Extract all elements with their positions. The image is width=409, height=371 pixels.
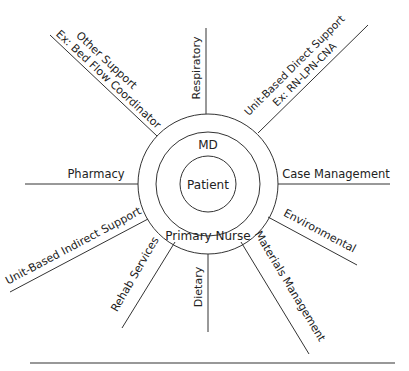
label-md: MD bbox=[198, 138, 218, 152]
label-rehab-services: Rehab Services bbox=[108, 234, 162, 314]
label-other-support-example: Ex: Bed Flow Coordinator bbox=[53, 27, 164, 132]
label-case-management: Case Management bbox=[282, 167, 390, 181]
label-respiratory: Respiratory bbox=[190, 36, 203, 100]
care-team-diagram: Patient MD Primary Nurse Respiratory Uni… bbox=[0, 0, 409, 371]
label-primary-nurse: Primary Nurse bbox=[165, 229, 250, 243]
label-unit-based-indirect-support: Unit-Based Indirect Support bbox=[3, 204, 144, 287]
label-patient: Patient bbox=[187, 178, 229, 192]
label-materials-management: Materials Management bbox=[252, 229, 329, 345]
label-pharmacy: Pharmacy bbox=[67, 167, 124, 181]
label-dietary: Dietary bbox=[192, 266, 205, 307]
label-unit-based-direct-support: Unit-Based Direct Support bbox=[242, 13, 347, 118]
